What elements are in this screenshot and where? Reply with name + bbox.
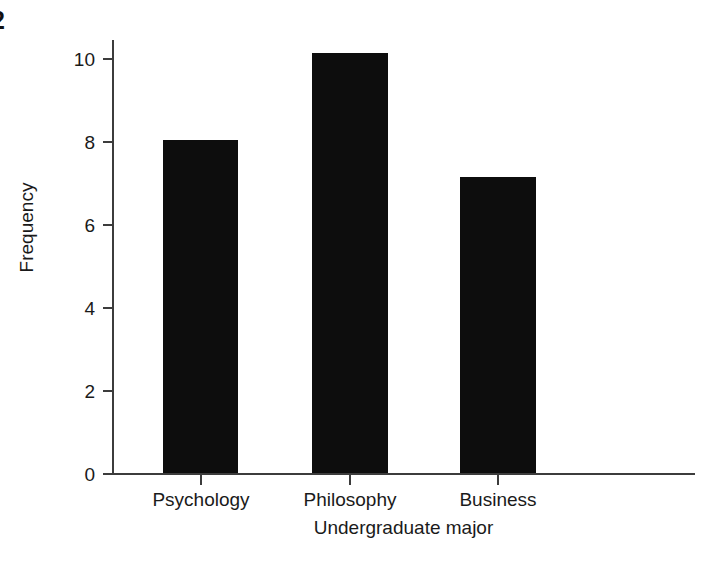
y-tick-label-10: 10 bbox=[55, 50, 95, 69]
x-tick-label-business: Business bbox=[398, 489, 598, 511]
figure-page: 2 0 2 4 6 8 10 Psychology Philosophy Bus… bbox=[0, 0, 725, 571]
bar-business[interactable] bbox=[460, 177, 536, 473]
x-axis-title: Undergraduate major bbox=[112, 517, 695, 539]
y-tick-label-2: 2 bbox=[55, 382, 95, 401]
y-tick-1 bbox=[103, 390, 113, 392]
x-tick-psychology bbox=[200, 474, 202, 485]
x-tick-business bbox=[497, 474, 499, 485]
y-tick-5 bbox=[103, 58, 113, 60]
y-axis-title: Frequency bbox=[17, 158, 36, 298]
bar-psychology[interactable] bbox=[163, 140, 238, 473]
y-tick-label-6: 6 bbox=[55, 216, 95, 235]
y-axis-line bbox=[112, 40, 114, 475]
y-tick-4 bbox=[103, 141, 113, 143]
y-tick-label-0: 0 bbox=[55, 465, 95, 484]
x-tick-philosophy bbox=[349, 474, 351, 485]
y-tick-label-4: 4 bbox=[55, 299, 95, 318]
bar-philosophy[interactable] bbox=[312, 53, 388, 473]
bar-chart: 0 2 4 6 8 10 Psychology Philosophy Busin… bbox=[0, 0, 725, 571]
y-tick-3 bbox=[103, 224, 113, 226]
y-tick-0 bbox=[103, 473, 113, 475]
y-tick-label-8: 8 bbox=[55, 133, 95, 152]
y-tick-2 bbox=[103, 307, 113, 309]
